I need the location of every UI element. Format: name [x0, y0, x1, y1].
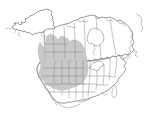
map-area-greenland — [136, 14, 143, 32]
distribution-map-figure: North America — [0, 0, 148, 125]
north-america-map-svg — [0, 0, 148, 125]
greenland-edge-detail — [136, 14, 143, 32]
